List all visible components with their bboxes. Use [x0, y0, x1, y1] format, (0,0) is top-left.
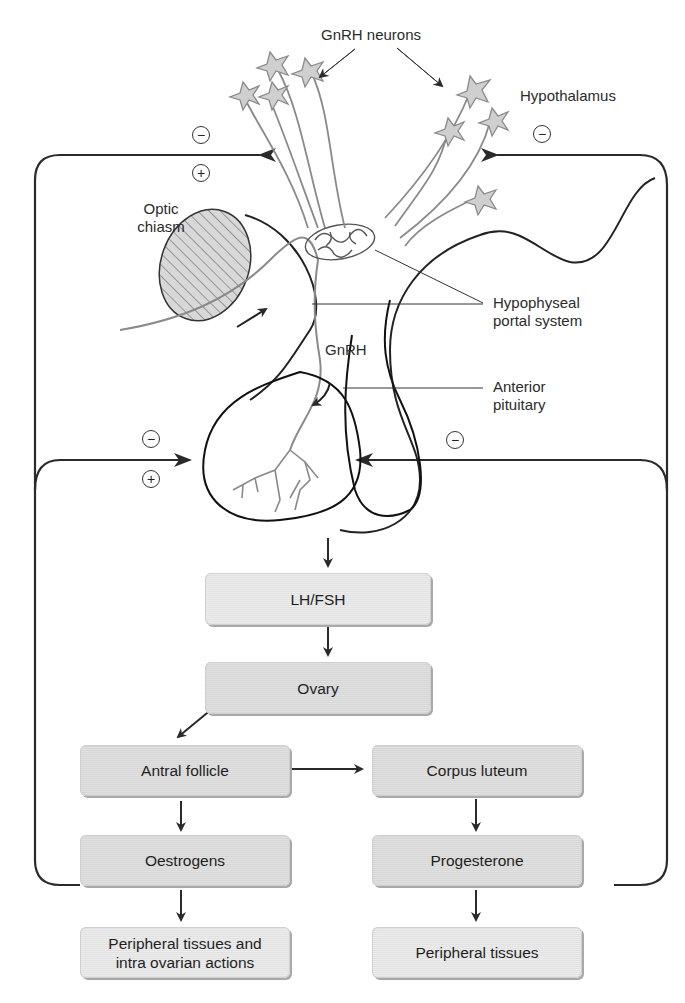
box-peripheral-left-line1: Peripheral tissues and [108, 934, 261, 953]
label-anterior-line1: Anterior [493, 378, 546, 396]
box-peripheral-tissues-intra-ovarian: Peripheral tissues and intra ovarian act… [80, 927, 290, 978]
portal-capillary-network [303, 219, 378, 265]
anterior-pituitary-shape [203, 372, 360, 521]
box-corpus-luteum: Corpus luteum [372, 745, 582, 796]
gnrh-neuron-bodies [230, 52, 508, 215]
minus-sign-pituitary-right: − [446, 431, 464, 449]
pituitary-capillaries [233, 450, 318, 512]
box-peripheral-left-line2: intra ovarian actions [116, 953, 255, 972]
plus-sign-hypothalamus-left: + [192, 164, 210, 182]
box-antral-follicle: Antral follicle [80, 745, 290, 796]
box-oestrogens: Oestrogens [80, 835, 290, 886]
minus-sign-hypothalamus-right: − [533, 125, 551, 143]
box-ovary: Ovary [205, 662, 431, 714]
label-portal-line2: portal system [493, 312, 582, 330]
box-lh-fsh: LH/FSH [205, 573, 431, 625]
label-optic-chiasm: Optic chiasm [132, 200, 190, 236]
label-hypothalamus: Hypothalamus [520, 87, 616, 105]
plus-sign-pituitary-left: + [142, 470, 160, 488]
label-optic-chiasm-line2: chiasm [132, 218, 190, 236]
label-hypophyseal-portal-system: Hypophyseal portal system [493, 294, 582, 330]
label-gnrh-neurons: GnRH neurons [321, 26, 421, 44]
minus-sign-hypothalamus-left: − [192, 126, 210, 144]
third-ventricle-outline [340, 178, 655, 533]
minus-sign-pituitary-left: − [142, 430, 160, 448]
blood-flow-arrow [237, 309, 266, 327]
label-portal-line1: Hypophyseal [493, 294, 582, 312]
box-progesterone: Progesterone [372, 835, 582, 886]
gnrh-flow-arrow [313, 383, 330, 405]
label-gnrh: GnRH [325, 341, 367, 359]
box-peripheral-tissues: Peripheral tissues [372, 927, 582, 978]
label-optic-chiasm-line1: Optic [132, 200, 190, 218]
leader-lines [312, 48, 483, 388]
label-anterior-pituitary: Anterior pituitary [493, 378, 546, 414]
label-anterior-line2: pituitary [493, 396, 546, 414]
